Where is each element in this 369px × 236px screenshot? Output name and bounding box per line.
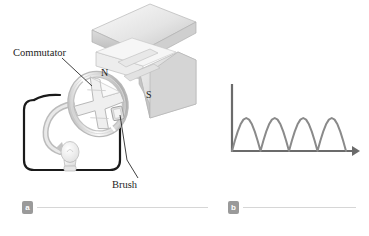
- label-brush: Brush: [112, 180, 137, 191]
- light-bulb: [61, 142, 79, 172]
- rectified-sine-curve: [232, 118, 346, 151]
- caption-divider-b: [243, 207, 356, 208]
- emf-vs-time-chart: [196, 0, 369, 200]
- label-north-pole: N: [101, 68, 108, 78]
- panel-b-emf-graph: ε t: [196, 0, 369, 200]
- panel-a-generator: Commutator Brush N S: [0, 0, 196, 200]
- brush-contact: [111, 106, 124, 121]
- label-south-pole: S: [146, 90, 152, 100]
- label-commutator: Commutator: [13, 48, 66, 59]
- caption-rail-b: b: [228, 197, 356, 217]
- x-axis-arrowhead: [352, 146, 360, 156]
- panel-badge-a: a: [22, 201, 33, 214]
- generator-illustration: [0, 0, 196, 200]
- panel-badge-b: b: [228, 201, 239, 214]
- caption-divider-a: [37, 207, 208, 208]
- caption-rail-a: a: [22, 197, 208, 217]
- figure-root: Commutator Brush N S ε t a b: [0, 0, 369, 236]
